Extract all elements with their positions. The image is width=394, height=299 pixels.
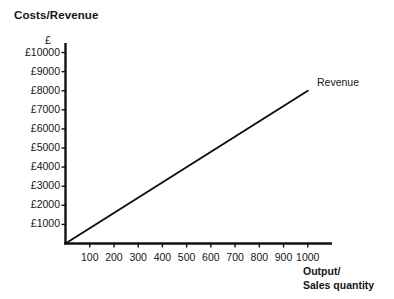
y-tick-label: £4000 [2,161,60,172]
y-tick-label: £2000 [2,199,60,210]
x-axis-caption-line-1: Output/ [303,264,374,278]
data-series-group [66,91,308,244]
y-tick-label: £7000 [2,104,60,115]
y-tick-label: £8000 [2,85,60,96]
y-tick-label: £5000 [2,142,60,153]
y-tick-label: £6000 [2,123,60,134]
series-line-revenue [66,91,308,244]
y-tick-label: £10000 [2,47,60,58]
y-tick-label: £3000 [2,180,60,191]
chart-container: Costs/Revenue £ £1000£2000£3000£4000£500… [0,0,394,299]
x-tick-label: 1000 [288,252,328,263]
series-label-revenue: Revenue [317,76,359,88]
y-tick-label: £9000 [2,66,60,77]
x-axis-caption-line-2: Sales quantity [303,278,374,292]
y-tick-label: £1000 [2,218,60,229]
x-axis-caption: Output/ Sales quantity [303,264,374,292]
